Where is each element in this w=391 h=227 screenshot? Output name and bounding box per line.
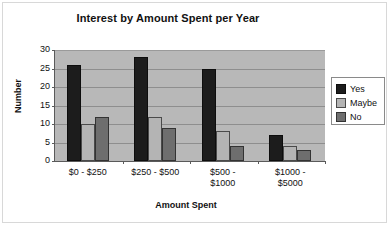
bar[interactable] [134, 57, 148, 161]
x-axis-tick [190, 161, 191, 164]
legend-item-no[interactable]: No [336, 110, 384, 124]
bar-group [269, 50, 311, 161]
bar[interactable] [269, 135, 283, 161]
legend-label: Maybe [350, 99, 377, 108]
y-axis-tick [52, 161, 55, 162]
bar[interactable] [67, 65, 81, 161]
y-axis-tick-labels: 051015202530 [12, 50, 50, 162]
x-axis-tick-label-line: $250 - $500 [121, 167, 189, 178]
legend-label: No [350, 113, 362, 122]
y-axis-tick-label: 5 [14, 138, 50, 147]
y-axis-tick [52, 87, 55, 88]
bar-group [67, 50, 109, 161]
y-axis-tick-label: 25 [14, 64, 50, 73]
bar[interactable] [202, 69, 216, 162]
x-axis-tick-label: $1000 -$5000 [256, 167, 324, 189]
bar[interactable] [81, 124, 95, 161]
y-axis-tick-label: 15 [14, 101, 50, 110]
bar[interactable] [216, 131, 230, 161]
y-axis-tick [52, 143, 55, 144]
legend-swatch-icon [336, 98, 346, 108]
legend-item-yes[interactable]: Yes [336, 82, 384, 96]
x-axis-tick-labels: $0 - $250$250 - $500$500 -$1000$1000 -$5… [54, 167, 325, 195]
y-axis-tick [52, 124, 55, 125]
x-axis-tick-label-line: $1000 [189, 178, 257, 189]
bar[interactable] [95, 117, 109, 161]
x-axis-tick-label: $250 - $500 [121, 167, 189, 178]
bar-group [134, 50, 176, 161]
x-axis-tick-label: $500 -$1000 [189, 167, 257, 189]
bar[interactable] [162, 128, 176, 161]
y-axis-tick [52, 69, 55, 70]
plot-area [54, 50, 325, 162]
y-axis-tick-label: 20 [14, 82, 50, 91]
y-axis-tick [52, 106, 55, 107]
x-axis-tick [123, 161, 124, 164]
bar-group [202, 50, 244, 161]
x-axis-tick-label-line: $1000 - [256, 167, 324, 178]
bar[interactable] [230, 146, 244, 161]
bar[interactable] [283, 146, 297, 161]
x-axis-tick-label: $0 - $250 [54, 167, 122, 178]
chart-legend: YesMaybeNo [331, 77, 385, 125]
legend-label: Yes [350, 85, 365, 94]
y-axis-tick-label: 0 [14, 156, 50, 165]
x-axis-tick [258, 161, 259, 164]
x-axis-title: Amount Spent [51, 200, 321, 210]
x-axis-tick-label-line: $500 - [189, 167, 257, 178]
x-axis-tick [325, 161, 326, 164]
bar[interactable] [297, 150, 311, 161]
legend-item-maybe[interactable]: Maybe [336, 96, 384, 110]
bar[interactable] [148, 117, 162, 161]
y-axis-tick [52, 50, 55, 51]
x-axis-tick-label-line: $5000 [256, 178, 324, 189]
x-axis-tick-label-line: $0 - $250 [54, 167, 122, 178]
y-axis-tick-label: 10 [14, 119, 50, 128]
legend-swatch-icon [336, 112, 346, 122]
legend-swatch-icon [336, 84, 346, 94]
y-axis-tick-label: 30 [14, 45, 50, 54]
chart-title: Interest by Amount Spent per Year [3, 12, 333, 24]
chart-frame: Interest by Amount Spent per Year Number… [2, 2, 387, 223]
